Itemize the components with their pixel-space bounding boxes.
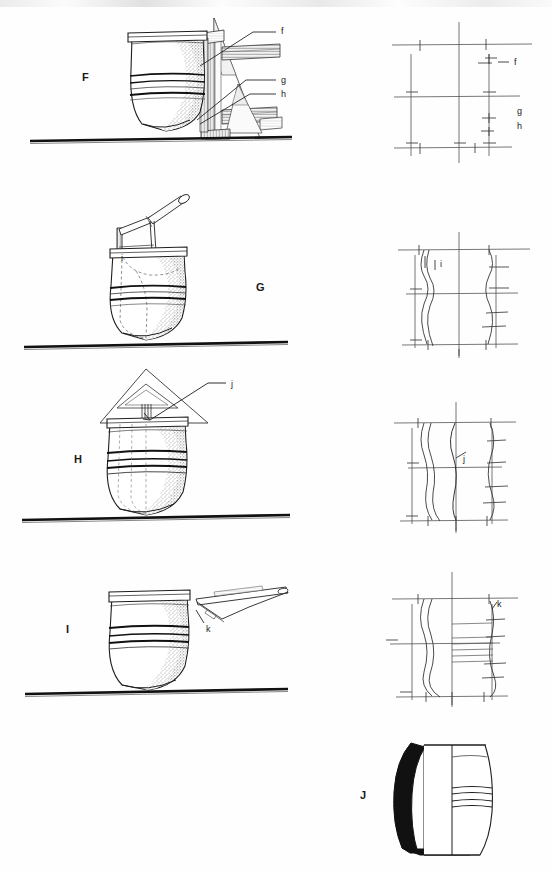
- callout-i: i: [121, 253, 123, 263]
- F-vessel: [128, 31, 207, 131]
- F-wooden-frame: [200, 18, 282, 139]
- figure-G-group: [24, 193, 288, 350]
- figure-I-group: [25, 586, 288, 697]
- drawing-layer: [0, 0, 552, 872]
- H-leader-line: [150, 383, 226, 420]
- F-leader-lines: [197, 32, 276, 124]
- H-conical-lid: [100, 369, 208, 424]
- figure-J-group: [394, 743, 493, 855]
- callout-k: k: [206, 624, 211, 634]
- figure-H-group: [22, 369, 290, 523]
- callout-g: g: [281, 75, 286, 85]
- scan-artifact-band: [0, 0, 552, 7]
- I-angled-tool: [196, 586, 288, 622]
- figure-F-group: [30, 18, 292, 144]
- schematic-callout-f: f: [514, 57, 517, 67]
- figure-H-schematic: [394, 402, 516, 533]
- figure-label-G: G: [256, 281, 265, 293]
- schematic-callout-j: j: [463, 454, 465, 464]
- figure-F-schematic: [392, 22, 532, 163]
- F-ground-line: [30, 137, 292, 141]
- H-ground-line: [22, 515, 290, 520]
- G-ground-line: [24, 342, 288, 347]
- figure-label-H: H: [74, 453, 82, 465]
- schematic-callout-g: g: [517, 106, 522, 116]
- I-leader-line: [196, 610, 204, 623]
- I-vessel: [109, 590, 190, 690]
- figure-label-J: J: [360, 789, 366, 801]
- schematic-callout-i: i: [440, 259, 442, 269]
- I-ground-line: [25, 689, 288, 694]
- figure-G-schematic: [398, 232, 530, 358]
- callout-h: h: [281, 89, 286, 99]
- figure-I-schematic: [386, 572, 518, 707]
- callout-f: f: [281, 26, 284, 36]
- figure-label-I: I: [66, 623, 69, 635]
- figure-label-F: F: [82, 71, 89, 83]
- schematic-callout-h: h: [517, 121, 522, 131]
- callout-j: j: [231, 379, 233, 389]
- illustration-plate: F G H I J f g h f g h i i j j k k: [0, 0, 552, 872]
- schematic-callout-k: k: [497, 599, 502, 609]
- H-vessel: [107, 417, 188, 515]
- G-lever-tool: [117, 193, 191, 258]
